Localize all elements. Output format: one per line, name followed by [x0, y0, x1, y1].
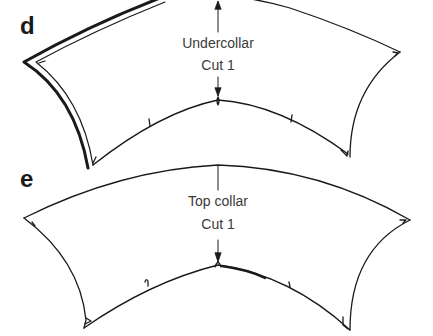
notch-mark [291, 115, 292, 122]
undercollar-right-edge [350, 52, 400, 157]
top-collar-piece [24, 165, 410, 330]
undercollar-inner-edge [36, 2, 165, 165]
arrow-up-head [215, 1, 221, 9]
notch-mark [149, 119, 150, 126]
undercollar-neck-edge [93, 100, 348, 165]
undercollar-name: Undercollar [158, 36, 278, 50]
top-collar-neck-edge [84, 265, 350, 330]
notch-mark [145, 280, 148, 286]
top-collar-left-edge [24, 218, 86, 328]
notch-mark [39, 61, 45, 63]
undercollar-piece [24, 0, 400, 168]
notch-mark [93, 157, 96, 163]
top-collar-neck-thick [222, 266, 265, 278]
top-collar-name: Top collar [158, 194, 278, 208]
arrow-down-head [215, 253, 221, 262]
panel-label-e: e [20, 167, 33, 191]
notch-mark [289, 282, 290, 287]
collar-pattern-diagram: d Undercollar Cut 1 e Top collar Cut 1 [0, 0, 433, 336]
notch-mark [217, 97, 219, 105]
top-collar-right-edge [350, 220, 410, 330]
panel-label-d: d [20, 14, 35, 38]
top-collar-cut-instruction: Cut 1 [158, 217, 278, 231]
arrow-down-head [215, 88, 221, 96]
undercollar-outer-edge [24, 0, 160, 168]
undercollar-cut-instruction: Cut 1 [158, 58, 278, 72]
notch-mark [393, 52, 398, 56]
